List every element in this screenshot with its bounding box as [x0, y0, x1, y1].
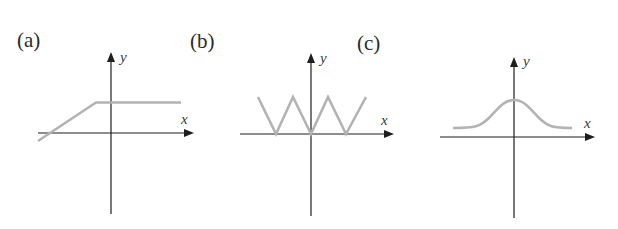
panel-c-y-arrow-icon [510, 57, 518, 67]
panel-b-x-label: x [380, 112, 388, 128]
panel-a-x-arrow-icon [184, 129, 194, 137]
panel-a-y-arrow-icon [107, 52, 115, 62]
panel-c: (c) y x [357, 31, 595, 218]
panel-c-x-arrow-icon [585, 133, 595, 141]
panel-a-label: (a) [17, 28, 40, 52]
panel-b: (b) y x [190, 29, 394, 216]
panel-b-y-arrow-icon [307, 53, 315, 63]
figure: (a) y x (b) y x (c) y x [0, 0, 618, 229]
panel-c-label: (c) [357, 31, 380, 55]
panel-a-x-label: x [180, 111, 188, 127]
panel-a-curve [38, 103, 181, 142]
panel-c-curve [453, 100, 572, 128]
panel-c-y-label: y [521, 53, 530, 69]
panel-c-x-label: x [583, 115, 591, 131]
panel-a-y-label: y [118, 49, 127, 65]
panel-b-y-label: y [318, 50, 327, 66]
panel-b-curve [258, 97, 366, 134]
panel-a: (a) y x [17, 28, 194, 214]
panel-b-x-arrow-icon [384, 130, 394, 138]
panel-b-label: (b) [190, 29, 215, 53]
